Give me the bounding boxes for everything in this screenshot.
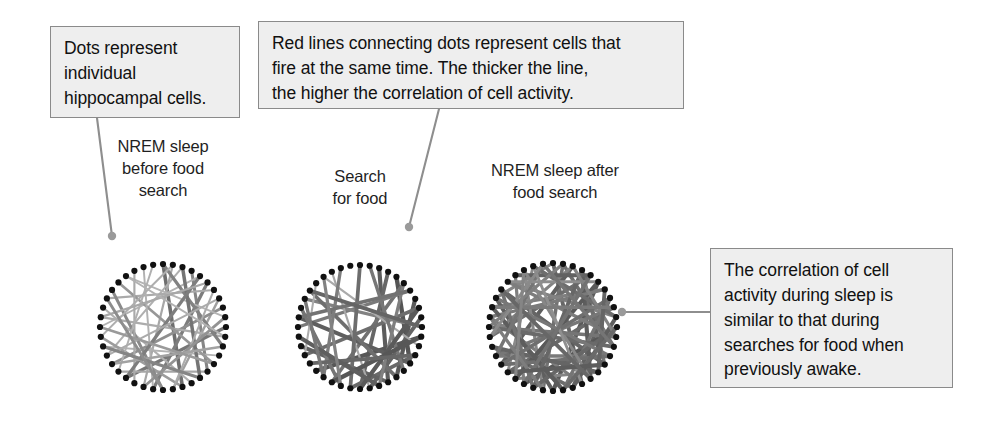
leader-endpoint-dot-dots	[108, 232, 116, 240]
callout-dots: Dots represent individual hippocampal ce…	[50, 26, 240, 118]
leader-endpoint-dot-correlation	[618, 308, 626, 316]
panel-caption-nrem-before: NREM sleep before food search	[88, 136, 238, 202]
panel-caption-nrem-after: NREM sleep after food search	[472, 160, 638, 204]
panel-caption-search-for-food: Search for food	[292, 166, 428, 210]
leader-endpoint-dot-redlines	[405, 223, 413, 231]
callout-redlines: Red lines connecting dots represent cell…	[258, 21, 684, 109]
callout-correlation: The correlation of cell activity during …	[710, 248, 953, 388]
